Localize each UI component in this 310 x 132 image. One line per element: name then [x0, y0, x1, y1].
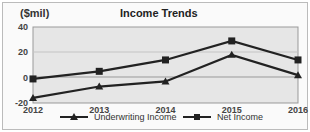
legend-underwriting: Underwriting Income	[60, 112, 177, 122]
y-axis-ticks: 40200-20	[15, 22, 28, 108]
legend-label: Net Income	[217, 112, 263, 122]
svg-text:2012: 2012	[23, 105, 43, 115]
triangle-marker-icon	[60, 112, 88, 122]
legend-net-income: Net Income	[183, 112, 263, 122]
svg-text:2016: 2016	[288, 105, 308, 115]
svg-text:40: 40	[18, 22, 28, 32]
svg-text:20: 20	[18, 47, 28, 57]
svg-text:0: 0	[23, 73, 28, 83]
legend-label: Underwriting Income	[94, 112, 177, 122]
square-marker-icon	[183, 112, 211, 122]
